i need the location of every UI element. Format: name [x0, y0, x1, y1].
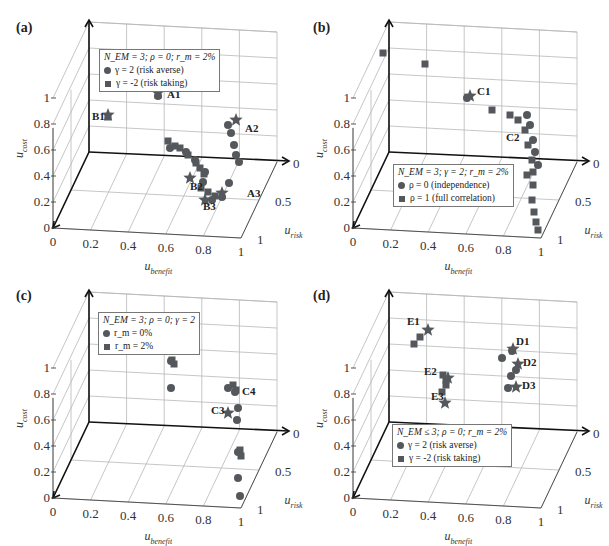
data-point	[237, 447, 244, 454]
x-tick-label: 0.6	[158, 510, 175, 525]
z-tick-label: 0.8	[334, 116, 350, 131]
legend-item: r_m = 2%	[115, 340, 153, 353]
x-tick-label: 0.2	[82, 506, 98, 521]
data-point	[165, 138, 172, 145]
z-tick-label: 1	[344, 360, 351, 375]
y-axis-label: urisk	[585, 493, 603, 510]
data-point	[185, 152, 192, 159]
x-tick-label: 0.8	[195, 242, 211, 257]
z-axis-label: ucost	[12, 408, 29, 428]
circle-marker-icon	[398, 182, 405, 189]
z-tick-label: 0.4	[34, 438, 51, 453]
panel-b: (b) 00.20.40.60.8100.20.40.60.8100.51ube…	[300, 0, 600, 270]
data-point	[489, 107, 496, 114]
y-tick-label: 0	[593, 426, 600, 441]
x-tick-label: 0.6	[458, 240, 475, 255]
legend-item: ρ = 1 (full correlation)	[410, 192, 495, 205]
point-annotation: C4	[242, 385, 256, 397]
x-tick-label: 0.4	[420, 508, 437, 523]
data-point	[212, 193, 219, 200]
data-point	[529, 197, 536, 204]
x-tick-label: 1	[538, 244, 545, 259]
data-point	[529, 157, 536, 164]
legend-item: γ = -2 (risk taking)	[409, 452, 480, 465]
z-tick-label: 0.2	[34, 194, 50, 209]
data-point	[524, 172, 531, 179]
point-annotation: C1	[477, 85, 490, 97]
z-tick-label: 0	[44, 220, 51, 235]
y-tick-label: 0	[293, 156, 300, 171]
z-tick-label: 0	[344, 490, 351, 505]
panel-c: (c) 00.20.40.60.8100.20.40.60.8100.51ube…	[0, 270, 300, 540]
data-point	[525, 142, 532, 149]
data-point	[530, 169, 537, 176]
square-marker-icon	[104, 344, 110, 350]
point-annotation: D1	[516, 335, 529, 347]
data-point	[197, 165, 204, 172]
x-tick-label: 0.4	[120, 238, 137, 253]
legend-item: γ = 2 (risk averse)	[408, 439, 477, 452]
z-tick-label: 1	[44, 360, 51, 375]
legend-title: N_EM = 3; ρ = 0; r_m = 2%	[104, 51, 215, 64]
legend: N_EM = 3; γ = 2; r_m = 2% ρ = 0 (indepen…	[393, 164, 514, 207]
x-tick-label: 1	[238, 244, 245, 259]
data-point	[535, 227, 542, 234]
y-tick-label: 1	[557, 502, 564, 517]
scatter-3d-plot: 00.20.40.60.8100.20.40.60.8100.51ubenefi…	[300, 0, 600, 270]
x-tick-label: 1	[238, 514, 245, 529]
z-tick-label: 0.8	[34, 116, 50, 131]
data-point	[417, 334, 424, 341]
x-tick-label: 0.8	[495, 512, 511, 527]
y-tick-label: 1	[257, 232, 264, 247]
point-annotation: C3	[211, 404, 225, 416]
legend: N_EM ≤ 3; ρ = 0; r_m = 2% γ = 2 (risk av…	[392, 424, 512, 467]
z-tick-label: 0.4	[334, 168, 351, 183]
point-annotation: D3	[522, 379, 536, 391]
y-tick-label: 0.5	[275, 194, 291, 209]
data-point	[533, 219, 540, 226]
x-tick-label: 0.8	[195, 512, 211, 527]
data-point	[233, 387, 240, 394]
data-point	[235, 158, 243, 166]
data-point	[225, 179, 233, 187]
data-point	[411, 341, 418, 348]
data-point	[498, 354, 506, 362]
z-tick-label: 0.6	[34, 142, 51, 157]
legend-title: N_EM ≤ 3; ρ = 0; r_m = 2%	[397, 426, 507, 439]
x-axis-label: ubenefit	[444, 529, 473, 546]
y-tick-label: 1	[257, 502, 264, 517]
data-point	[523, 111, 531, 119]
data-point	[522, 127, 529, 134]
x-tick-label: 0	[50, 234, 57, 249]
z-tick-label: 0	[44, 490, 51, 505]
x-tick-label: 0.2	[382, 236, 398, 251]
y-tick-label: 0	[293, 426, 300, 441]
y-tick-label: 0.5	[575, 464, 591, 479]
z-tick-label: 0.6	[34, 412, 51, 427]
data-point	[233, 416, 241, 424]
data-point	[531, 209, 538, 216]
z-tick-label: 0.6	[334, 412, 351, 427]
circle-marker-icon	[397, 442, 404, 449]
legend: N_EM = 3; ρ = 0; γ = 2 r_m = 0% r_m = 2%	[98, 312, 200, 355]
legend-title: N_EM = 3; γ = 2; r_m = 2%	[398, 166, 509, 179]
circle-marker-icon	[103, 330, 110, 337]
square-marker-icon	[399, 196, 405, 202]
circle-marker-icon	[104, 67, 111, 74]
point-annotation: E3	[431, 390, 444, 402]
scatter-3d-plot: 00.20.40.60.8100.20.40.60.8100.51ubenefi…	[0, 270, 300, 540]
x-tick-label: 0.4	[120, 508, 137, 523]
point-annotation: A3	[247, 187, 261, 199]
legend: N_EM = 3; ρ = 0; r_m = 2% γ = 2 (risk av…	[99, 49, 220, 92]
y-tick-label: 0.5	[275, 464, 291, 479]
z-tick-label: 0.6	[334, 142, 351, 157]
scatter-3d-plot: 00.20.40.60.8100.20.40.60.8100.51ubenefi…	[300, 270, 600, 540]
x-tick-label: 0.6	[158, 240, 175, 255]
data-point	[234, 404, 242, 412]
y-tick-label: 0.5	[575, 194, 591, 209]
z-tick-label: 1	[344, 90, 351, 105]
star-marker-icon	[509, 380, 522, 393]
z-axis-label: ucost	[12, 138, 29, 158]
z-tick-label: 0.2	[334, 464, 350, 479]
x-tick-label: 0	[50, 504, 57, 519]
